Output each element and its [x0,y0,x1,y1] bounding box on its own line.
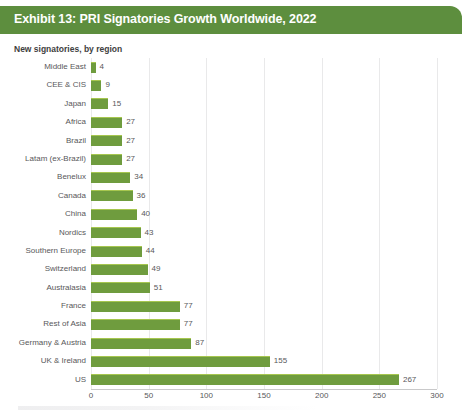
bar [91,319,180,330]
bar-value-label: 27 [126,132,135,150]
category-label: Benelux [0,168,86,186]
bar [91,117,122,128]
bar-value-label: 77 [184,315,193,333]
bar [91,209,137,220]
x-tick-label: 100 [200,391,213,400]
chart-subtitle: New signatories, by region [14,44,122,54]
bar [91,154,122,165]
bar-row: Middle East4 [0,58,462,76]
bar [91,301,180,312]
bar-value-label: 267 [403,371,416,389]
bar [91,282,150,293]
bar-row: Africa27 [0,113,462,131]
bar [91,98,108,109]
bar-value-label: 49 [152,260,161,278]
bar-row: Southern Europe44 [0,242,462,260]
bar [91,227,141,238]
bar [91,172,130,183]
category-label: China [0,205,86,223]
bar-rows: Middle East4CEE & CIS9Japan15Africa27Bra… [0,58,462,389]
bar-value-label: 15 [112,95,121,113]
bar-row: Japan15 [0,95,462,113]
bar [91,374,399,385]
bar-row: Benelux34 [0,168,462,186]
bar-row: Canada36 [0,187,462,205]
bar-value-label: 43 [145,224,154,242]
bar-row: Nordics43 [0,224,462,242]
bar [91,264,148,275]
bar-row: Australasia51 [0,279,462,297]
category-label: Australasia [0,279,86,297]
page-title: Exhibit 13: PRI Signatories Growth World… [14,12,316,26]
bar-value-label: 34 [134,168,143,186]
category-label: Rest of Asia [0,315,86,333]
bar [91,135,122,146]
bar-row: Switzerland49 [0,260,462,278]
category-label: France [0,297,86,315]
x-tick-label: 150 [257,391,270,400]
bar-row: CEE & CIS9 [0,76,462,94]
bar-value-label: 40 [141,205,150,223]
category-label: Canada [0,187,86,205]
x-axis-line [91,389,437,390]
bar-value-label: 4 [100,58,104,76]
bar-value-label: 36 [137,187,146,205]
bar-value-label: 155 [274,352,287,370]
category-label: US [0,371,86,389]
exhibit-header-banner: Exhibit 13: PRI Signatories Growth World… [0,6,462,34]
category-label: Africa [0,113,86,131]
bar-value-label: 51 [154,279,163,297]
category-label: Japan [0,95,86,113]
x-tick-label: 300 [430,391,443,400]
category-label: Middle East [0,58,86,76]
bar [91,190,133,201]
category-label: Southern Europe [0,242,86,260]
bar-row: US267 [0,371,462,389]
bar-row: Germany & Austria87 [0,334,462,352]
category-label: Latam (ex-Brazil) [0,150,86,168]
bar-row: Latam (ex-Brazil)27 [0,150,462,168]
category-label: Germany & Austria [0,334,86,352]
x-tick-label: 250 [373,391,386,400]
bar [91,246,142,257]
bar-value-label: 27 [126,113,135,131]
bar [91,356,270,367]
category-label: Brazil [0,132,86,150]
category-label: CEE & CIS [0,76,86,94]
x-tick-label: 200 [315,391,328,400]
bar-row: China40 [0,205,462,223]
category-label: UK & Ireland [0,352,86,370]
category-label: Switzerland [0,260,86,278]
bar [91,338,191,349]
bar [91,80,101,91]
bar-row: Rest of Asia77 [0,315,462,333]
bar-chart: Middle East4CEE & CIS9Japan15Africa27Bra… [0,58,462,410]
bar-value-label: 27 [126,150,135,168]
bar-value-label: 44 [146,242,155,260]
bar-row: Brazil27 [0,132,462,150]
bar-row: UK & Ireland155 [0,352,462,370]
x-tick-label: 0 [89,391,93,400]
category-label: Nordics [0,224,86,242]
page-bottom-artifact [18,406,318,410]
bar [91,62,96,73]
bar-value-label: 77 [184,297,193,315]
x-tick-label: 50 [144,391,153,400]
bar-value-label: 87 [195,334,204,352]
bar-row: France77 [0,297,462,315]
bar-value-label: 9 [105,76,109,94]
